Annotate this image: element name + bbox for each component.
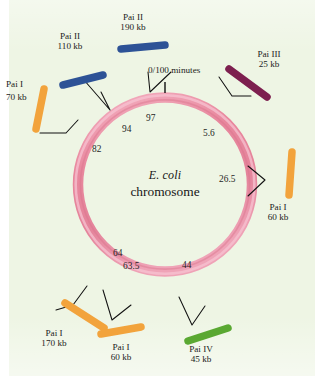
- island-size: 60 kb: [111, 352, 132, 362]
- island-name: Pai I: [45, 328, 62, 338]
- island-name: Pai IV: [189, 344, 213, 354]
- island-name: Pai I: [112, 342, 129, 352]
- island-size: 60 kb: [268, 212, 289, 222]
- minute-marker-64: 64: [113, 248, 122, 258]
- connector-pai-i-70: [40, 120, 78, 133]
- island-label-pai-ii-190: Pai II 190 kb: [103, 13, 163, 33]
- island-label-pai-i-70: Pai I 70 kb: [6, 80, 58, 103]
- center-caption: E. coli chromosome: [85, 168, 245, 200]
- minute-marker-97: 97: [146, 113, 155, 123]
- figure-root: E. coli chromosome 0/100 minutes 97 94 8…: [0, 0, 315, 376]
- connector-pai-ii-190: [148, 72, 171, 92]
- island-size: 45 kb: [191, 354, 212, 364]
- island-bar-pai-iv-45: [188, 328, 228, 341]
- island-size: 70 kb: [6, 93, 27, 103]
- island-label-pai-iii-25: Pai III 25 kb: [237, 50, 301, 70]
- connector-pai-ii-110: [84, 80, 110, 110]
- island-label-pai-iv-45: Pai IV 45 kb: [168, 345, 234, 365]
- connector-pai-iv-45: [179, 297, 205, 325]
- island-size: 190 kb: [120, 22, 145, 32]
- island-size: 110 kb: [58, 41, 83, 51]
- island-name: Pai II: [123, 12, 143, 22]
- minute-marker-63-5: 63.5: [123, 261, 139, 271]
- island-label-pai-i-170: Pai I 170 kb: [24, 329, 84, 349]
- island-bar-pai-ii-190: [121, 45, 165, 49]
- minute-marker-44: 44: [182, 260, 191, 270]
- minute-marker-5-6: 5.6: [203, 128, 215, 138]
- island-name: Pai II: [60, 31, 80, 41]
- island-label-pai-i-60-bottom: Pai I 60 kb: [91, 343, 151, 363]
- minute-marker-82: 82: [92, 144, 101, 154]
- island-label-pai-i-60-right: Pai I 60 kb: [248, 203, 308, 223]
- minute-marker-94: 94: [122, 124, 131, 134]
- island-bar-pai-ii-110: [63, 75, 103, 85]
- island-name: Pai I: [269, 202, 286, 212]
- island-bar-pai-i-60-right: [289, 152, 292, 195]
- minute-marker-26-5: 26.5: [219, 174, 235, 184]
- island-name: Pai III: [257, 49, 280, 59]
- island-label-pai-ii-110: Pai II 110 kb: [40, 32, 100, 52]
- island-name: Pai I: [6, 79, 23, 89]
- chromosome-word: chromosome: [85, 184, 245, 200]
- island-bar-pai-iii-25: [229, 69, 267, 97]
- island-bar-pai-i-170: [65, 303, 104, 328]
- island-size: 170 kb: [41, 338, 66, 348]
- origin-label: 0/100 minutes: [148, 65, 200, 75]
- island-size: 25 kb: [259, 59, 280, 69]
- connector-pai-i-60-bottom: [103, 290, 131, 320]
